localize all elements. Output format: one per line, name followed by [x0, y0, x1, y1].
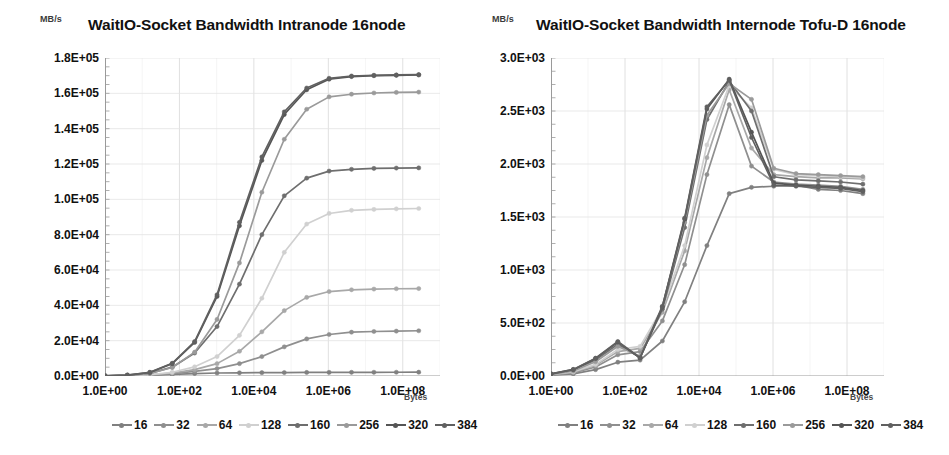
x-axis-tick-label: 1.0E+00	[82, 384, 127, 398]
line-chart-intranode	[105, 58, 440, 376]
y-axis-tick-label: 4.0E+04	[0, 298, 99, 312]
legend-marker-icon	[685, 420, 705, 430]
y-axis-unit-label: MB/s	[40, 14, 62, 24]
figure-sheet: MB/s WaitIO-Socket Bandwidth Intranode 1…	[0, 0, 949, 455]
y-axis-tick-label: 1.8E+05	[0, 51, 99, 65]
y-axis-tick-label: 1.0E+05	[0, 192, 99, 206]
legend-item-64[interactable]: 64	[639, 418, 681, 432]
legend-item-32[interactable]: 32	[596, 418, 638, 432]
legend-marker-icon	[643, 420, 663, 430]
page-title: WaitIO-Socket Bandwidth Internode Tofu-D…	[536, 16, 906, 34]
y-axis-tick-label: 3.0E+03	[474, 51, 545, 65]
legend-marker-icon	[197, 420, 217, 430]
legend-marker-icon	[558, 420, 578, 430]
y-axis-tick-label: 0.0E+00	[474, 369, 545, 383]
x-axis-tick-label: 1.0E+04	[676, 384, 721, 398]
y-axis-tick-label: 1.0E+03	[474, 263, 545, 277]
y-axis-tick-label: 0.0E+00	[0, 369, 99, 383]
legend-marker-icon	[881, 420, 901, 430]
legend-marker-icon	[832, 420, 852, 430]
legend-item-16[interactable]: 16	[554, 418, 596, 432]
legend-item-label: 160	[310, 418, 333, 432]
y-axis-tick-label: 1.2E+05	[0, 157, 99, 171]
page-title: WaitIO-Socket Bandwidth Intranode 16node	[88, 16, 406, 34]
legend-item-label: 256	[359, 418, 382, 432]
y-axis-tick-label: 8.0E+04	[0, 228, 99, 242]
x-axis-tick-label: 1.0E+04	[231, 384, 276, 398]
x-axis-tick-label: 1.0E+06	[750, 384, 795, 398]
y-axis-tick-label: 2.5E+03	[474, 104, 545, 118]
y-axis-tick-label: 6.0E+04	[0, 263, 99, 277]
legend-item-16[interactable]: 16	[108, 418, 150, 432]
legend-item-label: 32	[176, 418, 192, 432]
plot-area-internode	[551, 58, 884, 376]
legend-item-128[interactable]: 128	[681, 418, 730, 432]
legend-marker-icon	[112, 420, 132, 430]
legend-intranode[interactable]: 163264128160256320384	[108, 418, 480, 432]
legend-item-320[interactable]: 320	[828, 418, 877, 432]
y-axis-tick-label: 2.0E+03	[474, 157, 545, 171]
legend-marker-icon	[337, 420, 357, 430]
legend-item-label: 16	[580, 418, 596, 432]
legend-item-320[interactable]: 320	[382, 418, 431, 432]
legend-item-128[interactable]: 128	[235, 418, 284, 432]
x-axis-tick-label: 1.0E+02	[157, 384, 202, 398]
legend-item-384[interactable]: 384	[877, 418, 926, 432]
legend-item-label: 384	[903, 418, 926, 432]
y-axis-tick-label: 5.0E+02	[474, 316, 545, 330]
legend-marker-icon	[600, 420, 620, 430]
legend-item-label: 160	[756, 418, 779, 432]
legend-item-64[interactable]: 64	[193, 418, 235, 432]
y-axis-unit-label: MB/s	[492, 14, 514, 24]
x-axis-unit-label: Bytes	[404, 392, 427, 402]
legend-item-256[interactable]: 256	[779, 418, 828, 432]
legend-marker-icon	[239, 420, 259, 430]
legend-item-384[interactable]: 384	[431, 418, 480, 432]
legend-item-label: 128	[707, 418, 730, 432]
legend-marker-icon	[734, 420, 754, 430]
legend-marker-icon	[154, 420, 174, 430]
plot-area-intranode	[105, 58, 440, 376]
legend-item-label: 128	[261, 418, 284, 432]
chart-panel-internode: MB/s WaitIO-Socket Bandwidth Internode T…	[474, 0, 949, 455]
legend-item-160[interactable]: 160	[730, 418, 779, 432]
legend-item-label: 256	[805, 418, 828, 432]
x-axis-unit-label: Bytes	[850, 392, 873, 402]
y-axis-tick-label: 2.0E+04	[0, 334, 99, 348]
y-axis-tick-label: 1.4E+05	[0, 122, 99, 136]
legend-item-label: 32	[622, 418, 638, 432]
legend-internode[interactable]: 163264128160256320384	[554, 418, 926, 432]
legend-marker-icon	[386, 420, 406, 430]
y-axis-tick-label: 1.6E+05	[0, 86, 99, 100]
legend-item-label: 320	[408, 418, 431, 432]
legend-item-label: 64	[665, 418, 681, 432]
legend-item-256[interactable]: 256	[333, 418, 382, 432]
legend-item-label: 320	[854, 418, 877, 432]
chart-panel-intranode: MB/s WaitIO-Socket Bandwidth Intranode 1…	[0, 0, 474, 455]
legend-item-32[interactable]: 32	[150, 418, 192, 432]
y-axis-tick-label: 1.5E+03	[474, 210, 545, 224]
x-axis-tick-label: 1.0E+02	[602, 384, 647, 398]
line-chart-internode	[551, 58, 884, 376]
legend-marker-icon	[435, 420, 455, 430]
x-axis-tick-label: 1.0E+00	[528, 384, 573, 398]
legend-marker-icon	[783, 420, 803, 430]
legend-marker-icon	[288, 420, 308, 430]
legend-item-label: 64	[219, 418, 235, 432]
x-axis-tick-label: 1.0E+06	[306, 384, 351, 398]
legend-item-label: 16	[134, 418, 150, 432]
legend-item-160[interactable]: 160	[284, 418, 333, 432]
